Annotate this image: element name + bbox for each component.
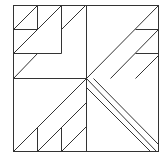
quilt-block-diagram <box>0 0 166 158</box>
